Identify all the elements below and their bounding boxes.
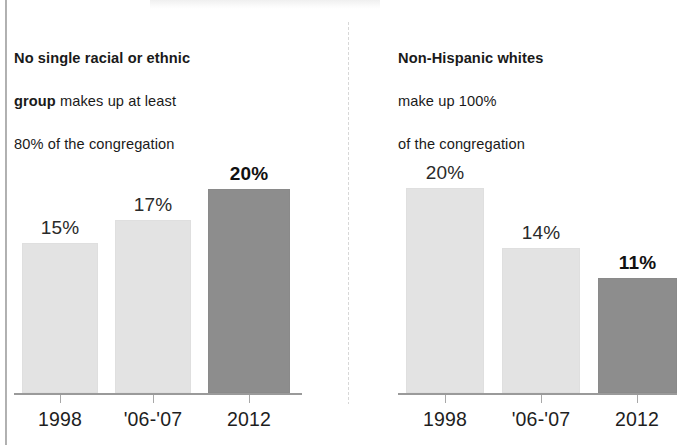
bar-left-2012[interactable] bbox=[208, 189, 290, 393]
bar-value-right-1998: 20% bbox=[392, 163, 498, 182]
x-tick-right-0 bbox=[445, 395, 446, 403]
panel-title-left: No single racial or ethnic group makes u… bbox=[14, 26, 314, 155]
x-tick-left-2 bbox=[249, 395, 250, 403]
panel-title-right-line2-normal: make up 100% bbox=[398, 93, 497, 109]
x-label-right-2012: 2012 bbox=[591, 408, 677, 430]
bar-value-right-0607: 14% bbox=[488, 223, 594, 242]
bar-value-right-2012: 11% bbox=[584, 253, 677, 272]
x-tick-left-0 bbox=[60, 395, 61, 403]
plot-area-right: 20% 14% 11% 1998 '06-'07 2012 bbox=[398, 150, 677, 445]
bar-value-left-2012: 20% bbox=[194, 164, 304, 183]
panel-title-right-line1-bold: Non-Hispanic whites bbox=[398, 50, 543, 66]
plot-area-left: 15% 17% 20% 1998 '06-'07 2012 bbox=[14, 150, 314, 445]
bar-slot-left-2: 20% bbox=[208, 150, 290, 393]
figure-canvas: No single racial or ethnic group makes u… bbox=[0, 0, 677, 445]
chart-panel-left: No single racial or ethnic group makes u… bbox=[14, 0, 344, 445]
x-tick-left-1 bbox=[153, 395, 154, 403]
panel-title-left-line1-bold: No single racial or ethnic bbox=[14, 50, 190, 66]
bar-slot-right-2: 11% bbox=[598, 150, 677, 393]
x-label-left-2012: 2012 bbox=[203, 408, 295, 430]
bar-value-left-0607: 17% bbox=[101, 195, 205, 214]
x-label-left-1998: 1998 bbox=[14, 408, 106, 430]
x-axis-line-right bbox=[398, 393, 677, 395]
bar-right-0607[interactable] bbox=[502, 248, 580, 393]
bar-slot-right-1: 14% bbox=[502, 150, 580, 393]
bar-left-0607[interactable] bbox=[115, 220, 191, 393]
left-edge-rule bbox=[5, 0, 7, 445]
x-label-right-1998: 1998 bbox=[399, 408, 491, 430]
x-tick-right-1 bbox=[541, 395, 542, 403]
x-axis-line-left bbox=[14, 393, 302, 395]
bar-left-1998[interactable] bbox=[22, 243, 98, 393]
panel-divider bbox=[348, 22, 349, 404]
x-label-left-0607: '06-'07 bbox=[107, 408, 199, 430]
bar-value-left-1998: 15% bbox=[8, 218, 112, 237]
chart-panel-right: Non-Hispanic whites make up 100% of the … bbox=[398, 0, 677, 445]
bar-slot-left-0: 15% bbox=[22, 150, 98, 393]
bar-right-2012[interactable] bbox=[598, 278, 677, 393]
bar-slot-right-0: 20% bbox=[406, 150, 484, 393]
panel-title-left-line2-bold: group bbox=[14, 93, 56, 109]
bar-right-1998[interactable] bbox=[406, 188, 484, 393]
x-tick-right-2 bbox=[637, 395, 638, 403]
bar-slot-left-1: 17% bbox=[115, 150, 191, 393]
x-label-right-0607: '06-'07 bbox=[495, 408, 587, 430]
panel-title-right: Non-Hispanic whites make up 100% of the … bbox=[398, 26, 668, 155]
panel-title-left-line2-normal: makes up at least bbox=[56, 93, 176, 109]
